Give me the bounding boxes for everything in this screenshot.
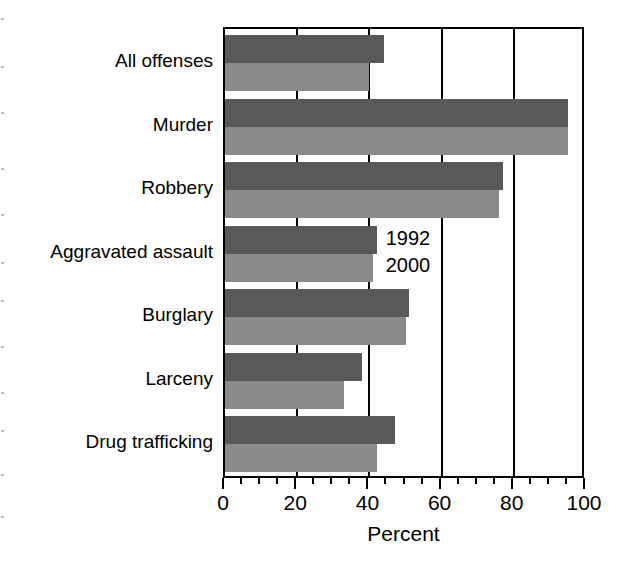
tick-minor-85 [529,478,531,484]
bar-group [225,162,582,218]
bar-2000-larceny [225,381,344,409]
bar-chart-figure: All offensesMurderRobberyAggravated assa… [0,0,637,568]
tick-minor-35 [348,478,350,484]
tick-minor-5 [240,478,242,484]
tick-major-0 [222,478,224,489]
tick-minor-25 [312,478,314,484]
tick-major-60 [439,478,441,489]
bar-1992-murder [225,99,568,127]
bar-group [225,416,582,472]
tick-minor-15 [276,478,278,484]
category-label-robbery: Robbery [3,177,213,199]
bar-2000-aggravated-assault [225,254,373,282]
bar-2000-robbery [225,190,499,218]
tick-minor-65 [457,478,459,484]
tick-minor-90 [547,478,549,484]
category-label-all-offenses: All offenses [3,50,213,72]
category-label-burglary: Burglary [3,304,213,326]
category-label-drug-trafficking: Drug trafficking [3,431,213,453]
tick-major-40 [366,478,368,489]
x-tick-label-100: 100 [554,491,614,515]
bar-1992-larceny [225,353,362,381]
series-annotation-1992: 1992 [386,227,431,250]
bar-1992-aggravated-assault [225,226,377,254]
tick-minor-30 [330,478,332,484]
plot-area: 19922000 [223,27,584,478]
bar-group [225,35,582,91]
bar-1992-robbery [225,162,503,190]
category-label-larceny: Larceny [3,368,213,390]
tick-minor-50 [403,478,405,484]
category-axis-labels: All offensesMurderRobberyAggravated assa… [0,0,213,568]
tick-minor-75 [493,478,495,484]
bar-1992-all-offenses [225,35,384,63]
x-axis: 020406080100 Percent [223,478,584,568]
category-label-murder: Murder [3,114,213,136]
x-axis-title: Percent [223,522,584,546]
bar-2000-all-offenses [225,63,369,91]
tick-major-20 [294,478,296,489]
category-label-aggravated-assault: Aggravated assault [3,241,213,263]
series-annotation-2000: 2000 [386,254,431,277]
tick-minor-10 [258,478,260,484]
bar-group [225,289,582,345]
bar-group [225,353,582,409]
tick-minor-95 [565,478,567,484]
tick-minor-70 [475,478,477,484]
x-tick-label-40: 40 [337,491,397,515]
bar-1992-drug-trafficking [225,416,395,444]
bar-2000-burglary [225,317,406,345]
tick-major-80 [511,478,513,489]
bar-1992-burglary [225,289,409,317]
bar-group [225,99,582,155]
bar-2000-drug-trafficking [225,444,377,472]
bar-2000-murder [225,127,568,155]
x-tick-label-20: 20 [265,491,325,515]
x-tick-label-60: 60 [410,491,470,515]
tick-minor-45 [384,478,386,484]
tick-minor-55 [421,478,423,484]
x-tick-label-0: 0 [193,491,253,515]
x-tick-label-80: 80 [482,491,542,515]
tick-major-100 [583,478,585,489]
